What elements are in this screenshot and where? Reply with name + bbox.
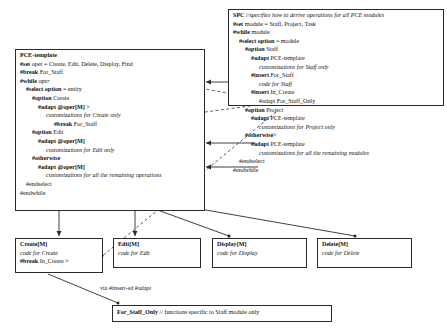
display-line: code for Display <box>217 250 302 259</box>
pce-text: oper = Create, Edit, Delete, Display, Fi… <box>30 61 133 67</box>
via-insert-ed-adapt-label: via #insert-ed #adapt <box>100 285 151 291</box>
pce-text: = entity <box>61 86 81 92</box>
spc-keyword: #adapt <box>251 55 269 61</box>
pce-text: #endselect <box>26 181 52 187</box>
diagram-canvas: SPC //specifies how to derive operations… <box>0 0 447 332</box>
spc-keyword: #adapt <box>251 141 269 147</box>
pce-title: PCE-template <box>20 52 57 58</box>
create-comment: code for Create <box>20 250 58 256</box>
spc-line: #endwhile <box>233 167 439 176</box>
spc-line: #adapt For_Staff_Only <box>233 98 439 107</box>
pce-keyword: #while <box>20 78 37 84</box>
edit-box-title: Edit[M] <box>118 241 196 250</box>
spc-text: PCE-template <box>269 115 305 121</box>
spc-keyword: #adapt <box>251 115 269 121</box>
spc-text: For_Staff <box>269 72 294 78</box>
spc-keyword: #select option <box>239 38 274 44</box>
delete-box-title: Delete[M] <box>322 241 407 250</box>
edit-line: code for Edit <box>118 250 196 259</box>
spc-line: #while module <box>233 29 439 38</box>
pce-text: #endwhile <box>20 190 45 196</box>
pce-keyword: #break <box>20 69 38 75</box>
spc-text: #endselect <box>239 158 265 164</box>
create-operation-box: Create[M] code for Create#break In_Creat… <box>15 238 103 273</box>
create-box-title: Create[M] <box>20 241 98 250</box>
spc-text: Staff <box>265 46 278 52</box>
spc-line: #select option = module <box>233 38 439 47</box>
spc-line: code for Staff <box>233 81 439 90</box>
spc-keyword: #otherwise <box>245 132 273 138</box>
spc-keyword: #option <box>245 107 265 113</box>
pce-line: #break For_Staff <box>20 69 200 78</box>
spc-box: SPC //specifies how to derive operations… <box>228 9 444 106</box>
pce-line: #adapt @oper[M] <box>20 138 200 147</box>
pce-text: Create <box>52 95 69 101</box>
pce-template-box: PCE-template#set oper = Create, Edit, De… <box>15 49 205 211</box>
pce-text: Edit <box>52 129 64 135</box>
spc-comment: customizations for Project only <box>259 124 335 130</box>
pce-keyword: #set <box>20 61 30 67</box>
delete-box-lines: code for Delete <box>322 250 407 259</box>
spc-line: #set module = Staff, Project, Task <box>233 21 439 30</box>
spc-text: In_Create <box>269 89 295 95</box>
spc-keyword: #insert <box>251 89 269 95</box>
pce-keyword: #select option <box>26 86 61 92</box>
spc-line: customizations for all the remaining mod… <box>233 150 439 159</box>
delete-operation-box: Delete[M] code for Delete <box>317 238 412 268</box>
spc-comment: code for Staff <box>259 81 292 87</box>
spc-line: #adapt PCE-template <box>233 55 439 64</box>
for-staff-only-title: For_Staff_Only <box>117 309 158 315</box>
spc-text: PCE-template <box>269 141 305 147</box>
create-keyword: #break <box>20 258 38 264</box>
create-text: In_Create > <box>38 258 69 264</box>
display-box-lines: code for Display <box>217 250 302 259</box>
spc-text: = module <box>274 38 299 44</box>
pce-line: #endwhile <box>20 190 200 199</box>
pce-line: #option Create <box>20 95 200 104</box>
pce-line: #adapt @oper[M] <box>20 164 200 173</box>
spc-line: #option Project <box>233 107 439 116</box>
spc-text: module <box>250 29 270 35</box>
pce-to-display-arrow <box>152 208 231 238</box>
spc-line: #option Staff <box>233 46 439 55</box>
pce-keyword: #option <box>32 95 52 101</box>
edit-box-lines: code for Edit <box>118 250 196 259</box>
edit-operation-box: Edit[M] code for Edit <box>113 238 201 268</box>
pce-line: #endselect <box>20 181 200 190</box>
spc-comment: customizations for all the remaining mod… <box>259 150 369 156</box>
spc-text: > <box>273 132 276 138</box>
spc-keyword: #insert <box>251 72 269 78</box>
pce-comment: customizations for all the remaining ope… <box>46 172 162 178</box>
spc-keyword: #while <box>233 29 250 35</box>
spc-text: PCE-template <box>269 55 305 61</box>
display-box-title: Display[M] <box>217 241 302 250</box>
pce-line: #adapt @oper[M] > <box>20 104 200 113</box>
spc-keyword: #set <box>233 21 243 27</box>
pce-text: For_Staff <box>72 121 97 127</box>
spc-comment: customizations for Staff only <box>259 64 329 70</box>
pce-keyword: #adapt @oper[M] <box>38 164 85 170</box>
spc-line: #endselect <box>233 158 439 167</box>
spc-line: #adapt PCE-template <box>233 115 439 124</box>
pce-keyword: #break <box>54 121 72 127</box>
pce-comment: customizations for Create only <box>46 112 121 118</box>
pce-line: #option Edit <box>20 129 200 138</box>
pce-code-lines: PCE-template#set oper = Create, Edit, De… <box>20 52 200 198</box>
edit-comment: code for Edit <box>118 250 150 256</box>
pce-line: PCE-template <box>20 52 200 61</box>
create-line: code for Create <box>20 250 98 259</box>
delete-comment: code for Delete <box>322 250 360 256</box>
pce-line: customizations for Create only <box>20 112 200 121</box>
pce-line: #select option = entity <box>20 86 200 95</box>
create-line: #break In_Create > <box>20 258 98 267</box>
spc-keyword: SPC <box>233 12 245 18</box>
pce-comment: oper <box>37 78 50 84</box>
pce-line: #otherwise <box>20 155 200 164</box>
pce-keyword: #option <box>32 129 52 135</box>
display-operation-box: Display[M] code for Display <box>212 238 307 268</box>
spc-line: #adapt PCE-template <box>233 141 439 150</box>
pce-keyword: #adapt @oper[M] <box>38 138 85 144</box>
pce-line: customizations for all the remaining ope… <box>20 172 200 181</box>
create-box-lines: code for Create#break In_Create > <box>20 250 98 267</box>
for-staff-only-comment: // functions specific to Staff module on… <box>160 309 260 315</box>
